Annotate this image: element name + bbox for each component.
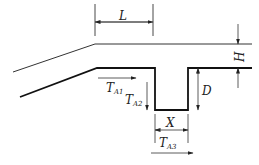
dimension-D: D <box>198 68 212 110</box>
force-TA3: TA3 <box>151 136 193 153</box>
label-D: D <box>201 84 212 98</box>
label-H: H <box>233 51 247 63</box>
dimension-L: L <box>95 4 153 36</box>
diagram-canvas: L H D X TA1 TA2 TA3 <box>0 0 259 165</box>
force-TA2: TA2 <box>125 82 147 110</box>
label-TA3: TA3 <box>159 136 177 151</box>
label-X: X <box>165 116 175 130</box>
label-L: L <box>118 9 127 23</box>
label-TA1: TA1 <box>106 81 124 96</box>
dimension-H: H <box>233 24 247 88</box>
label-TA2: TA2 <box>125 93 143 108</box>
